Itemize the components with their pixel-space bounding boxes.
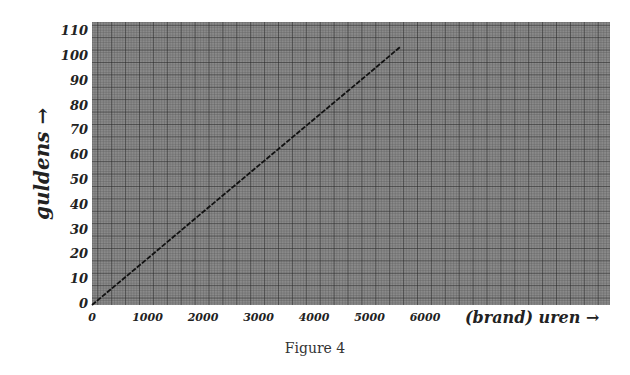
y-tick: 0	[40, 296, 88, 311]
x-tick: 3000	[243, 311, 274, 324]
x-tick: 6000	[410, 311, 441, 324]
x-axis-label: (brand) uren →	[465, 308, 599, 327]
x-tick: 4000	[299, 311, 330, 324]
y-tick: 40	[40, 197, 88, 212]
y-tick: 30	[40, 222, 88, 237]
y-tick: 110	[40, 23, 88, 38]
x-tick: 1000	[132, 311, 163, 324]
x-tick: 0	[88, 311, 96, 324]
y-tick: 60	[40, 147, 88, 162]
y-tick: 10	[40, 271, 88, 286]
y-tick: 100	[40, 48, 88, 63]
figure-caption: Figure 4	[0, 340, 630, 356]
y-tick: 70	[40, 122, 88, 137]
x-tick: 5000	[354, 311, 385, 324]
y-tick: 20	[40, 246, 88, 261]
x-tick: 2000	[188, 311, 219, 324]
y-tick: 50	[40, 172, 88, 187]
y-tick: 80	[40, 98, 88, 113]
y-tick: 90	[40, 73, 88, 88]
